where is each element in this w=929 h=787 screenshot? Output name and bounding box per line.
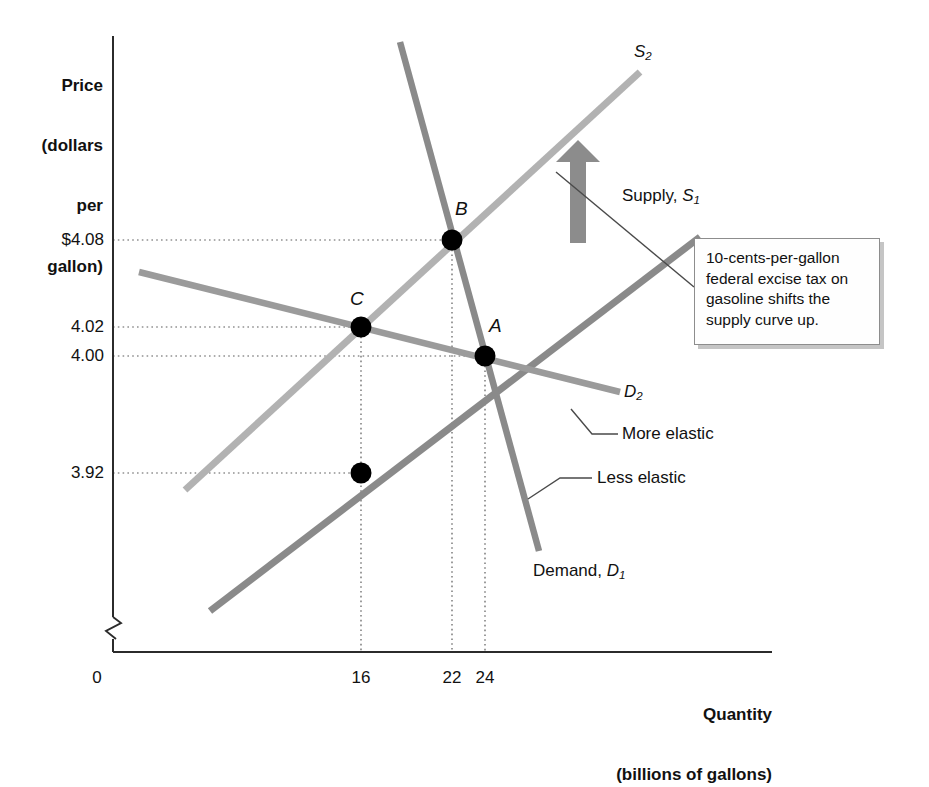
y-axis-title-line-4: gallon) xyxy=(0,257,103,277)
shift-arrow-icon xyxy=(556,140,600,243)
point-label-b: B xyxy=(455,198,468,220)
leader-more-elastic xyxy=(571,409,618,434)
curve-label-s2-text: S xyxy=(634,42,645,61)
curve-label-s1-sub: 1 xyxy=(694,194,700,206)
point-b xyxy=(442,230,463,251)
curve-label-d2-text: D xyxy=(624,382,636,401)
x-axis-title-main: Quantity xyxy=(560,705,772,725)
curve-label-d1-sub: 1 xyxy=(619,569,625,581)
curve-label-s2: S2 xyxy=(634,42,652,64)
curve-label-d2: D2 xyxy=(624,382,643,404)
annotation-more-elastic: More elastic xyxy=(622,424,714,444)
point-a xyxy=(475,346,496,367)
point-unlabeled xyxy=(351,463,372,484)
x-tick-24: 24 xyxy=(470,668,500,688)
curve-label-s1: Supply, S1 xyxy=(622,186,700,208)
curve-label-d1-text: Demand, xyxy=(533,561,602,580)
y-axis-title-line-2: (dollars xyxy=(0,136,103,156)
y-tick-402: 4.02 xyxy=(0,317,104,337)
x-axis-title: Quantity (billions of gallons) xyxy=(560,665,772,787)
curve-supply-s2 xyxy=(185,72,640,490)
curve-label-d2-sub: 2 xyxy=(636,390,642,402)
tax-callout-box: 10-cents-per-gallon federal excise tax o… xyxy=(694,238,880,345)
point-label-c: C xyxy=(350,288,364,310)
curve-label-s1-symbol: S xyxy=(682,186,693,205)
x-tick-22: 22 xyxy=(437,668,467,688)
y-tick-400: 4.00 xyxy=(0,346,104,366)
curve-label-d1: Demand, D1 xyxy=(533,561,625,583)
x-axis-title-sub: (billions of gallons) xyxy=(560,765,772,785)
callout-line-2: federal excise tax on xyxy=(706,269,869,290)
y-tick-408: $4.08 xyxy=(0,230,104,250)
y-axis-title: Price (dollars per gallon) xyxy=(0,36,103,317)
curve-label-s2-sub: 2 xyxy=(645,50,651,62)
y-axis-title-line-1: Price xyxy=(0,76,103,96)
curve-demand-d1 xyxy=(400,42,539,551)
callout-line-3: gasoline shifts the xyxy=(706,289,869,310)
x-tick-0: 0 xyxy=(82,668,112,688)
point-label-a: A xyxy=(489,315,502,337)
curve-label-s1-text: Supply, xyxy=(622,186,677,205)
x-tick-16: 16 xyxy=(346,668,376,688)
leader-less-elastic xyxy=(528,478,592,499)
axis-break-mark xyxy=(106,617,121,639)
curve-demand-d2 xyxy=(139,272,620,392)
point-c xyxy=(351,317,372,338)
annotation-less-elastic: Less elastic xyxy=(597,468,686,488)
y-axis-title-line-3: per xyxy=(0,196,103,216)
y-tick-392: 3.92 xyxy=(0,463,104,483)
curve-label-d1-symbol: D xyxy=(607,561,619,580)
callout-line-4: supply curve up. xyxy=(706,310,869,331)
leader-lines xyxy=(528,172,694,499)
callout-line-1: 10-cents-per-gallon xyxy=(706,248,869,269)
